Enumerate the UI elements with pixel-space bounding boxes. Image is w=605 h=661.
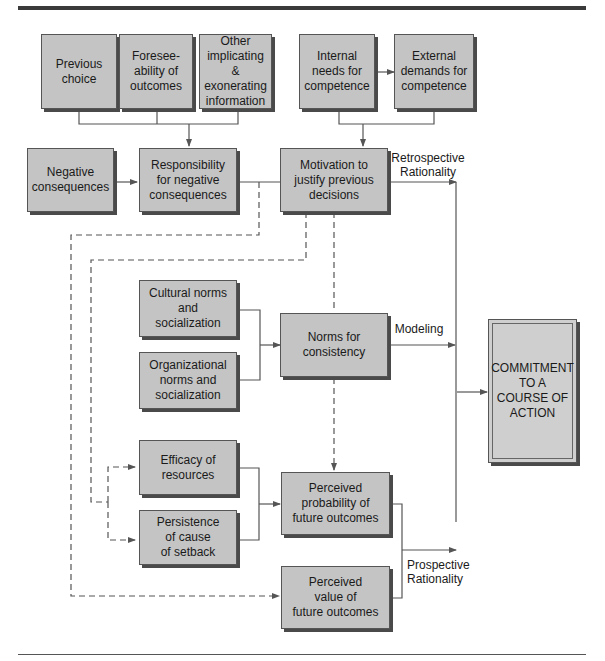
box-organizational-norms: Organizational norms and socialization xyxy=(139,352,237,409)
box-label: Efficacy of resources xyxy=(160,453,215,483)
box-label: Motivation to justify previous decisions xyxy=(294,158,373,203)
box-label: Organizational norms and socialization xyxy=(149,358,226,403)
label-retrospective-rationality: Retrospective Rationality xyxy=(388,151,468,179)
box-other-information: Other implicating & exonerating informat… xyxy=(199,34,272,109)
box-label: External demands for competence xyxy=(401,49,468,94)
box-perceived-value: Perceived value of future outcomes xyxy=(281,566,390,629)
box-previous-choice: Previous choice xyxy=(41,34,117,109)
box-label: COMMITMENT TO A COURSE OF ACTION xyxy=(491,361,574,421)
box-label: Perceived value of future outcomes xyxy=(292,575,378,620)
label-modeling: Modeling xyxy=(394,322,444,336)
box-efficacy: Efficacy of resources xyxy=(139,440,237,495)
box-norms-consistency: Norms for consistency xyxy=(280,313,388,377)
box-label: Norms for consistency xyxy=(303,330,366,360)
label-prospective-rationality: Prospective Rationality xyxy=(407,558,473,586)
box-label: Other implicating & exonerating informat… xyxy=(204,34,267,109)
box-label: Previous choice xyxy=(56,57,103,87)
box-commitment-inner: COMMITMENT TO A COURSE OF ACTION xyxy=(492,323,573,459)
box-negative-consequences: Negative consequences xyxy=(27,148,114,212)
box-commitment: COMMITMENT TO A COURSE OF ACTION xyxy=(488,319,577,463)
box-external-demands: External demands for competence xyxy=(394,34,474,109)
box-internal-needs: Internal needs for competence xyxy=(299,34,375,109)
box-label: Cultural norms and socialization xyxy=(149,286,227,331)
box-label: Foresee- ability of outcomes xyxy=(130,49,182,94)
box-responsibility: Responsibility for negative consequences xyxy=(139,148,237,212)
box-persistence: Persistence of cause of setback xyxy=(139,510,237,565)
box-label: Persistence of cause of setback xyxy=(157,515,220,560)
box-label: Negative consequences xyxy=(32,165,109,195)
box-label: Responsibility for negative consequences xyxy=(149,158,226,203)
box-perceived-probability: Perceived probability of future outcomes xyxy=(281,472,390,535)
box-label: Perceived probability of future outcomes xyxy=(292,481,378,526)
box-foreseeability: Foresee- ability of outcomes xyxy=(119,34,193,109)
box-label: Internal needs for competence xyxy=(304,49,369,94)
box-motivation: Motivation to justify previous decisions xyxy=(280,148,388,212)
box-cultural-norms: Cultural norms and socialization xyxy=(139,280,237,337)
